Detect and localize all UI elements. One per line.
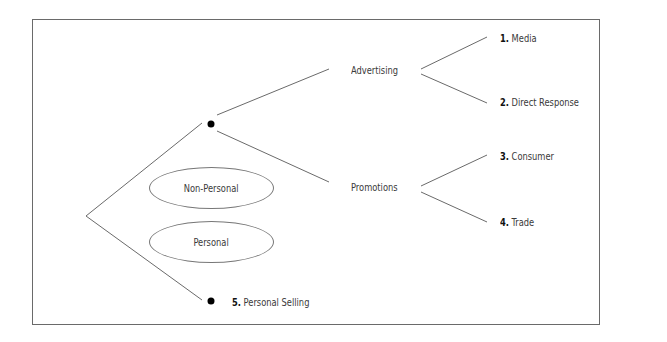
advertising-label: Advertising xyxy=(351,64,398,76)
personal-ellipse: Personal xyxy=(149,221,274,263)
promotions-label: Promotions xyxy=(351,181,398,193)
non-personal-ellipse: Non-Personal xyxy=(149,167,274,209)
non-personal-dot-icon xyxy=(208,121,215,128)
leaf-direct-response: 2. Direct Response xyxy=(500,96,579,108)
non-personal-label: Non-Personal xyxy=(184,182,239,194)
leaf-trade: 4. Trade xyxy=(500,216,534,228)
leaf-consumer: 3. Consumer xyxy=(500,150,554,162)
personal-label: Personal xyxy=(194,236,229,248)
leaf-media: 1. Media xyxy=(500,32,537,44)
connector-lines xyxy=(0,0,667,342)
personal-dot-icon xyxy=(208,298,215,305)
leaf-personal-selling: 5. Personal Selling xyxy=(232,296,309,308)
